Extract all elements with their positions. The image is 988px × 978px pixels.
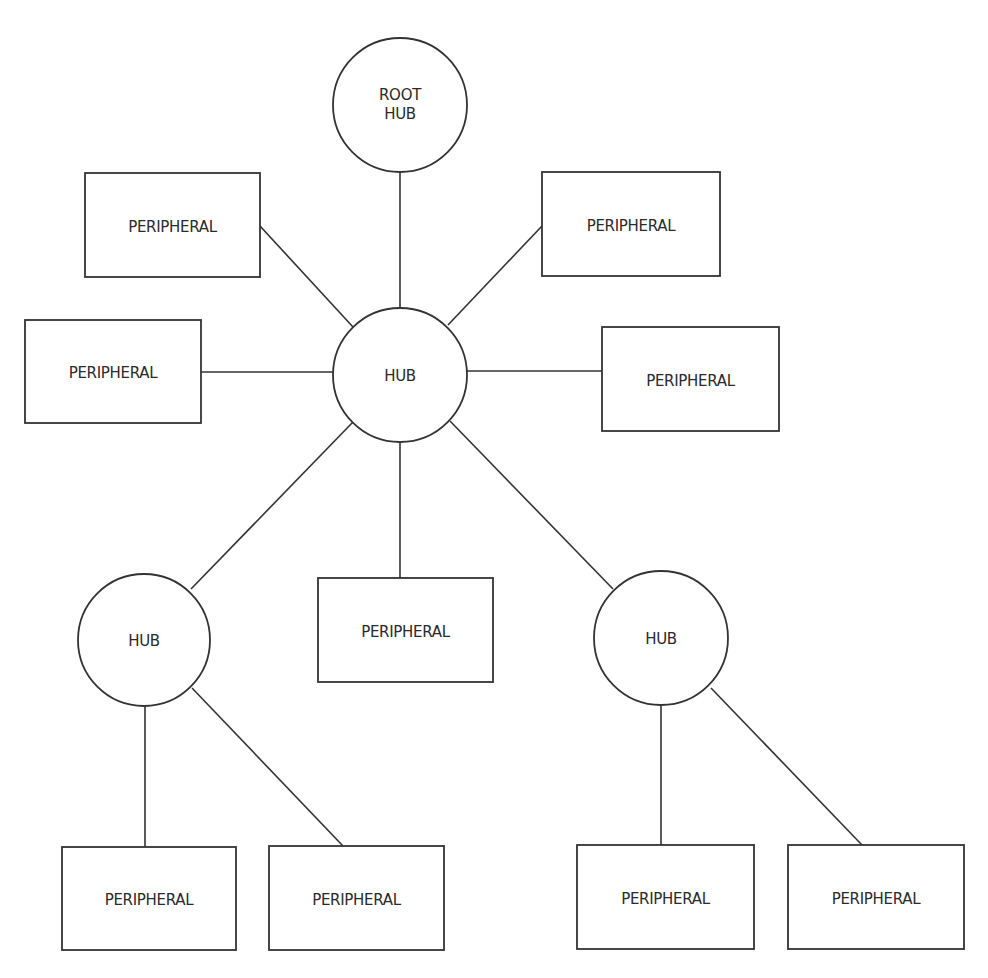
peripheral-node-p-top-left: PERIPHERAL	[85, 173, 260, 277]
hub-node-hub-left: HUB	[78, 574, 210, 706]
peripheral-node-p-mid-right: PERIPHERAL	[602, 327, 779, 431]
hub-label: HUB	[384, 105, 416, 123]
peripheral-node-p-bottom-left-2: PERIPHERAL	[269, 846, 444, 950]
hub-node-hub-center: HUB	[333, 308, 467, 442]
hub-node-root-hub: ROOTHUB	[333, 38, 467, 172]
peripheral-label: PERIPHERAL	[646, 372, 736, 390]
connection-line-hub-right-to-p-bottom-right-2	[711, 688, 862, 845]
connection-line-hub-center-to-p-top-right	[448, 226, 542, 325]
peripheral-label: PERIPHERAL	[312, 891, 402, 909]
peripheral-label: PERIPHERAL	[621, 890, 711, 908]
peripheral-label: PERIPHERAL	[832, 890, 922, 908]
peripheral-label: PERIPHERAL	[105, 891, 195, 909]
hub-label: HUB	[645, 630, 677, 648]
hub-node-hub-right: HUB	[594, 571, 728, 705]
peripheral-node-p-bottom-right-1: PERIPHERAL	[577, 845, 754, 949]
peripheral-node-p-bottom-left-1: PERIPHERAL	[62, 847, 236, 950]
peripheral-node-p-center: PERIPHERAL	[318, 578, 493, 682]
hub-label: HUB	[384, 367, 416, 385]
connection-line-hub-center-to-hub-left	[191, 422, 353, 589]
hub-label: ROOT	[379, 86, 422, 104]
connection-line-hub-left-to-p-bottom-left-2	[192, 688, 343, 846]
hub-label: HUB	[128, 632, 160, 650]
peripheral-label: PERIPHERAL	[128, 218, 218, 236]
peripheral-label: PERIPHERAL	[361, 623, 451, 641]
peripheral-label: PERIPHERAL	[69, 364, 159, 382]
peripheral-label: PERIPHERAL	[587, 217, 677, 235]
peripheral-node-p-bottom-right-2: PERIPHERAL	[788, 845, 964, 949]
peripheral-node-p-mid-left: PERIPHERAL	[25, 320, 201, 423]
peripheral-node-p-top-right: PERIPHERAL	[542, 172, 720, 276]
connection-line-hub-center-to-hub-right	[450, 421, 613, 589]
usb-topology-diagram: ROOTHUBHUBHUBHUBPERIPHERALPERIPHERALPERI…	[0, 0, 988, 978]
connection-line-hub-center-to-p-top-left	[260, 226, 353, 327]
diagram-nodes: ROOTHUBHUBHUBHUBPERIPHERALPERIPHERALPERI…	[25, 38, 964, 950]
